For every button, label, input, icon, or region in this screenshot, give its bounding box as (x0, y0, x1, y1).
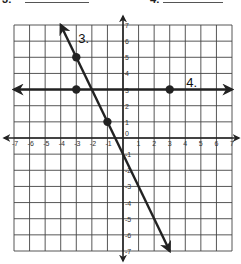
plotted-point (103, 118, 111, 126)
x-tick-label: 6 (214, 140, 218, 147)
x-tick-label: 4 (183, 140, 187, 147)
plotted-point (72, 85, 80, 93)
x-tick-label: 3 (168, 140, 172, 147)
y-tick-label: 1 (125, 119, 129, 126)
line-4-label: 4. (186, 75, 197, 90)
y-tick-label: -5 (125, 216, 131, 223)
x-tick-label: 1 (137, 140, 141, 147)
y-tick-label: 6 (125, 38, 129, 45)
x-tick-label: -3 (74, 140, 80, 147)
y-tick-label: 5 (125, 54, 129, 61)
y-tick-label: 2 (125, 103, 129, 110)
x-tick-label: -5 (43, 140, 49, 147)
x-tick-label: -2 (90, 140, 96, 147)
x-tick-label: 0 (125, 130, 129, 137)
plotted-point (72, 53, 80, 61)
x-tick-label: -7 (12, 140, 18, 147)
coordinate-plane: -7-6-5-4-3-2-1012345677654321-1-2-3-4-5-… (0, 0, 241, 264)
x-tick-label: -6 (28, 140, 34, 147)
y-tick-label: -6 (125, 232, 131, 239)
y-tick-label: -3 (125, 183, 131, 190)
y-tick-label: 7 (125, 22, 129, 29)
x-tick-label: -4 (59, 140, 65, 147)
plotted-point (166, 85, 174, 93)
x-tick-label: 2 (152, 140, 156, 147)
y-tick-label: -7 (125, 248, 131, 255)
y-tick-label: 4 (125, 70, 129, 77)
x-tick-label: 5 (199, 140, 203, 147)
x-tick-label: 7 (230, 140, 234, 147)
line-3-label: 3. (78, 31, 89, 46)
x-tick-label: -1 (105, 140, 111, 147)
y-tick-label: -4 (125, 200, 131, 207)
y-tick-label: -1 (125, 151, 131, 158)
